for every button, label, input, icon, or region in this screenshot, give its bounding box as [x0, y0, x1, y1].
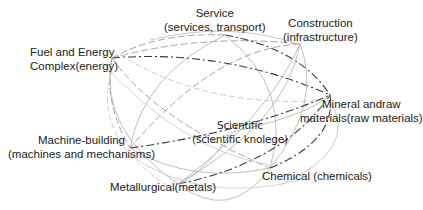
node-scientific-subtitle: (scientific knolege)	[192, 132, 288, 146]
node-construction-title: Construction	[283, 16, 358, 30]
edge-service-fuel	[112, 35, 225, 58]
node-metallurgical-title: Metallurgical(metals)	[110, 180, 216, 194]
edge-fuel-mineral	[112, 57, 330, 95]
node-fuel-title: Fuel and Energy	[30, 45, 118, 59]
edge-service-mineral	[225, 35, 330, 95]
node-service-subtitle: (services, transport)	[164, 20, 266, 34]
node-mineral-title: Mineral andraw	[300, 97, 423, 111]
node-machine-subtitle: (machines and mechanisms)	[8, 147, 155, 161]
edge-fuel-construction	[112, 41, 300, 58]
node-mineral-subtitle: materials(raw materials)	[300, 111, 423, 125]
node-service-title: Service	[164, 6, 266, 20]
node-machine-building: Machine-building (machines and mechanism…	[8, 133, 155, 161]
node-service: Service (services, transport)	[164, 6, 266, 34]
node-machine-title: Machine-building	[8, 133, 155, 147]
node-construction: Construction (infrastructure)	[283, 16, 358, 44]
node-chemical: Chemical (chemicals)	[262, 169, 372, 183]
node-fuel-energy: Fuel and Energy Complex(energy)	[30, 45, 118, 73]
node-scientific: Scientific (scientific knolege)	[192, 118, 288, 146]
node-scientific-title: Scientific	[192, 118, 288, 132]
node-metallurgical: Metallurgical(metals)	[110, 180, 216, 194]
node-construction-subtitle: (infrastructure)	[283, 30, 358, 44]
node-chemical-title: Chemical (chemicals)	[262, 169, 372, 183]
node-fuel-subtitle: Complex(energy)	[30, 59, 118, 73]
node-mineral: Mineral andraw materials(raw materials)	[300, 97, 423, 125]
edge-service-chemical	[225, 35, 276, 168]
background-arc	[107, 70, 175, 190]
